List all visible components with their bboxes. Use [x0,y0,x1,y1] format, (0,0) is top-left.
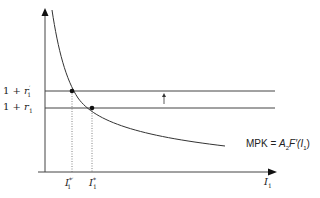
intersection-point-upper [70,89,75,94]
label-x-axis: I1 [264,176,272,189]
label-investment-new: I*′1 [65,176,71,190]
diagram-canvas [0,0,320,198]
label-rate-upper: 1 + r′1 [3,84,31,98]
label-rate-lower: 1 + r1 [3,101,33,114]
up-arrow-icon [162,93,166,97]
mpk-curve [52,10,225,146]
x-axis-arrow-icon [268,169,277,176]
y-axis-arrow-icon [42,8,49,16]
intersection-point-lower [90,106,95,111]
label-mpk-curve: MPK = A2F′(I1) [246,138,310,151]
label-investment-initial: I*1 [89,176,97,190]
mpk-diagram: 1 + r′1 1 + r1 I*′1 I*1 I1 MPK = A2F′(I1… [0,0,320,198]
